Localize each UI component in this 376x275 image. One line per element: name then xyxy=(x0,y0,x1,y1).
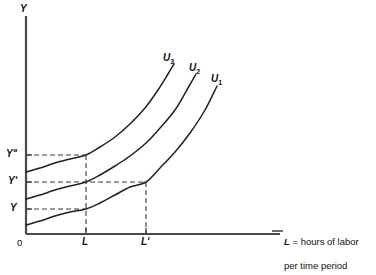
curve-label-u2-sub: 2 xyxy=(196,68,200,75)
curve-label-u3-sub: 3 xyxy=(170,58,174,65)
y-tick-label-y-double-prime: Yʺ xyxy=(6,149,17,159)
x-tick-label-l-prime: Lʹ xyxy=(141,237,150,247)
indifference-curve-u2 xyxy=(26,74,196,199)
indifference-curve-u3 xyxy=(26,64,174,172)
curve-label-u1-sub: 1 xyxy=(218,79,222,86)
x-tick-label-l: L xyxy=(82,237,88,247)
curve-label-u2: U2 xyxy=(189,63,200,75)
y-axis-label: Y xyxy=(20,4,27,14)
origin-label: 0 xyxy=(17,238,22,248)
x-axis-caption-line1: L = hours of labor xyxy=(284,236,359,248)
y-tick-label-y: Y xyxy=(10,203,17,213)
curve-label-u3: U3 xyxy=(163,53,174,65)
x-axis-caption: L = hours of labor per time period xyxy=(284,224,359,275)
curve-label-u1: U1 xyxy=(211,74,222,86)
x-axis-caption-line1-rest: = hours of labor xyxy=(290,236,359,247)
y-tick-label-y-prime: Yʹ xyxy=(8,176,17,186)
x-axis-caption-line2: per time period xyxy=(284,260,359,272)
